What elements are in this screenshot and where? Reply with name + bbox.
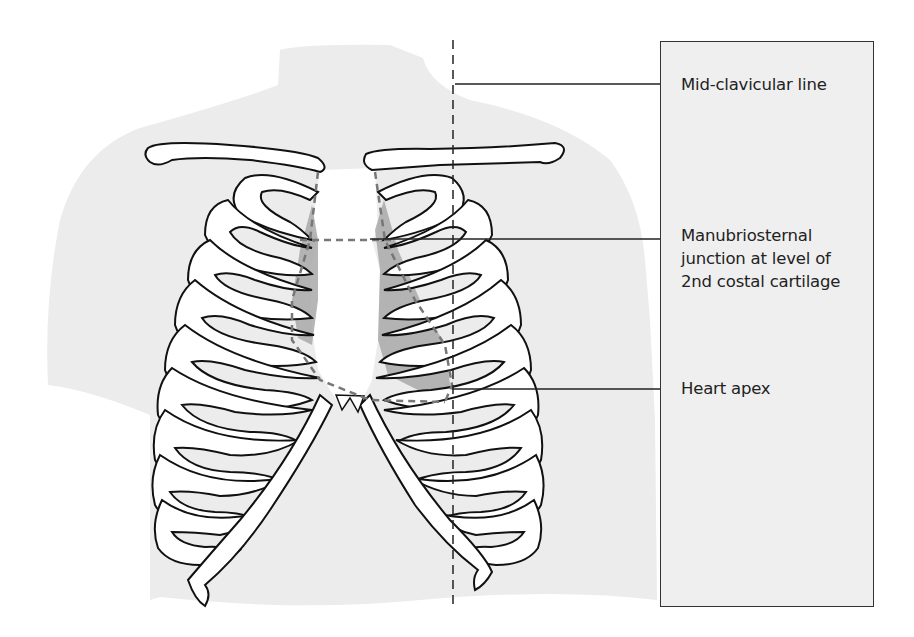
- label-panel: [660, 41, 874, 607]
- chest-diagram: Mid-clavicular line Manubriosternal junc…: [0, 0, 914, 637]
- label-manubriosternal-junction: Manubriosternal junction at level of 2nd…: [681, 224, 840, 293]
- label-heart-apex: Heart apex: [681, 377, 770, 400]
- sternum: [310, 168, 380, 405]
- label-mid-clavicular-line: Mid-clavicular line: [681, 73, 827, 96]
